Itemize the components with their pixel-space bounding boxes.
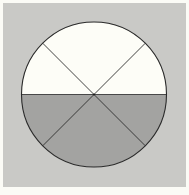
unshaded-upper-half — [22, 22, 167, 95]
divided-circle-diagram — [0, 0, 189, 195]
center-point — [93, 94, 95, 96]
shaded-lower-half — [22, 95, 167, 168]
